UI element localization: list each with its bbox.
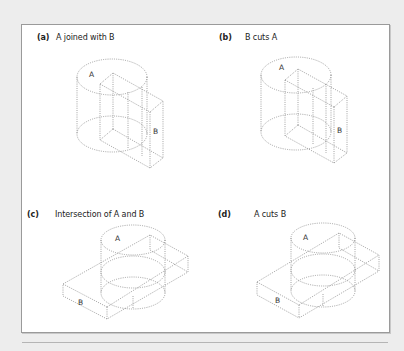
label-a: A — [303, 233, 309, 242]
diagram-a-cuts-b: A B — [0, 0, 404, 351]
cylinder-cuts-slab-drawing: A B — [0, 0, 404, 351]
label-b: B — [275, 296, 280, 305]
